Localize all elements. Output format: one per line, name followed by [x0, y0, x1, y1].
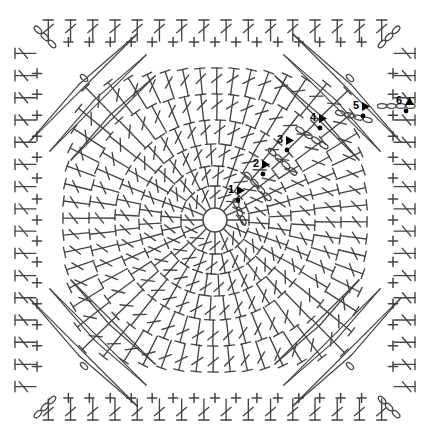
round-label-4: 4: [310, 112, 316, 123]
diagram-background: [0, 0, 434, 444]
slip-stitch-dot-6: [404, 109, 409, 114]
crochet-chart-canvas: 123456: [0, 0, 434, 444]
round-label-5: 5: [353, 100, 359, 111]
slip-stitch-dot-1: [236, 198, 241, 203]
round-label-3: 3: [277, 134, 283, 145]
round-label-6: 6: [396, 95, 402, 106]
slip-stitch-dot-5: [361, 114, 366, 119]
round-label-2: 2: [253, 158, 259, 169]
slip-stitch-dot-3: [285, 148, 290, 153]
slip-stitch-dot-2: [261, 172, 266, 177]
stitch-diagram: [0, 0, 434, 444]
slip-stitch-dot-4: [318, 126, 323, 131]
round-label-1: 1: [228, 184, 234, 195]
